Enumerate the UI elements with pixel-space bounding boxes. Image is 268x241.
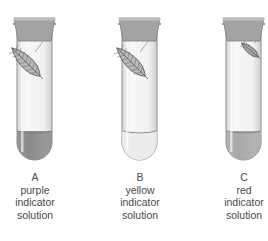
tube-lip-right <box>158 23 161 25</box>
tube-solution-word: solution <box>0 209 70 222</box>
test-tube-c-drawing <box>209 0 268 170</box>
stopper-top-edge <box>14 18 55 21</box>
tube-indicator-word: indicator <box>0 196 70 209</box>
tube-c-label: C red indicator solution <box>209 171 268 221</box>
glass-highlight <box>126 30 129 152</box>
tube-indicator-word: indicator <box>105 196 175 209</box>
test-tube-a: A purple indicator solution <box>0 0 70 241</box>
rubber-stopper <box>119 18 160 41</box>
test-tube-a-drawing <box>0 0 70 170</box>
tube-lip-left <box>118 23 121 25</box>
glass-highlight <box>21 30 24 152</box>
glass-highlight <box>230 30 233 152</box>
stopper-top-edge <box>223 18 264 21</box>
tube-indicator-word: indicator <box>209 196 268 209</box>
rubber-stopper <box>223 18 264 41</box>
tube-b-label: B yellow indicator solution <box>105 171 175 221</box>
tube-lip-left <box>13 23 16 25</box>
tube-a-label: A purple indicator solution <box>0 171 70 221</box>
tube-indicator-color: yellow <box>105 184 175 197</box>
test-tube-c: C red indicator solution <box>209 0 268 241</box>
test-tube-b: B yellow indicator solution <box>105 0 175 241</box>
tube-lip-left <box>222 23 225 25</box>
rubber-stopper <box>14 18 55 41</box>
test-tube-b-drawing <box>105 0 175 170</box>
tube-solution-word: solution <box>105 209 175 222</box>
stopper-top-edge <box>119 18 160 21</box>
tube-solution-word: solution <box>209 209 268 222</box>
tube-lip-right <box>262 23 265 25</box>
tube-indicator-color: purple <box>0 184 70 197</box>
tube-letter: C <box>209 171 268 184</box>
tube-letter: A <box>0 171 70 184</box>
tube-letter: B <box>105 171 175 184</box>
tube-indicator-color: red <box>209 184 268 197</box>
tube-lip-right <box>53 23 56 25</box>
